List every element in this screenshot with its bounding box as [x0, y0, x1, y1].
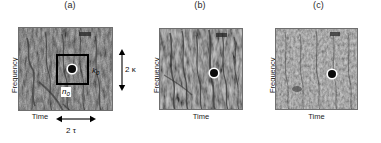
panel-a-k0-subscript: 0	[96, 70, 99, 76]
panel-c-x-axis-label: Time	[275, 113, 358, 121]
panel-a-2kappa-label: 2 κ	[125, 65, 136, 74]
panel-c: (c) Frequency	[256, 0, 381, 143]
panel-c-title: (c)	[256, 0, 381, 11]
panel-b-title: (b)	[140, 0, 260, 11]
panel-a-marker-dot[interactable]	[68, 65, 76, 73]
panel-b-texture	[160, 29, 243, 110]
panel-b-plot	[159, 28, 243, 110]
panel-a-horizontal-extent-arrow	[56, 114, 96, 124]
panel-a-k0-label: k0	[92, 66, 99, 76]
panel-c-marker-dot[interactable]	[328, 70, 336, 78]
panel-a-title: (a)	[0, 0, 140, 11]
figure-container: (a) Frequency	[0, 0, 381, 143]
panel-c-texture	[276, 29, 358, 110]
panel-c-plot	[275, 28, 358, 110]
panel-b-marker-dot[interactable]	[210, 69, 218, 77]
panel-b-x-axis-label: Time	[159, 113, 243, 121]
panel-a: (a) Frequency	[0, 0, 140, 143]
panel-a-n0-subscript: 0	[66, 91, 69, 97]
panel-a-plot: k0 n0	[18, 27, 113, 111]
panel-b: (b) Frequency	[140, 0, 260, 143]
panel-a-2tau-label: 2 τ	[66, 126, 76, 135]
panel-a-n0-label: n0	[61, 87, 71, 97]
